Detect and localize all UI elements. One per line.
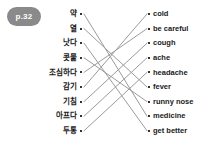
left-item-l9[interactable]: 두통 [63, 124, 82, 138]
right-connector-dot[interactable] [148, 101, 150, 103]
left-item-l2[interactable]: 열 [70, 22, 82, 36]
connection-line-l7-r3 [84, 43, 147, 101]
right-connector-dot[interactable] [148, 28, 150, 30]
left-item-label: 낫다 [63, 39, 77, 47]
connection-line-l8-r4 [84, 58, 147, 116]
right-item-r7[interactable]: runny nose [148, 95, 193, 109]
right-item-label: cough [153, 39, 176, 47]
left-item-label: 콧물 [63, 54, 77, 62]
left-item-label: 기침 [63, 98, 77, 106]
left-item-label: 열 [70, 25, 77, 33]
left-item-l8[interactable]: 아프다 [56, 109, 82, 123]
right-connector-dot[interactable] [148, 42, 150, 44]
right-connector-dot[interactable] [148, 57, 150, 59]
right-item-label: fever [153, 83, 171, 91]
left-connector-dot[interactable] [80, 13, 82, 15]
connection-line-l9-r5 [84, 72, 147, 130]
right-item-r1[interactable]: cold [148, 7, 168, 21]
left-column: 약열낫다콧물조심하다감기기침아프다두통 [0, 0, 82, 145]
right-item-label: be careful [153, 25, 188, 33]
right-item-r3[interactable]: cough [148, 36, 176, 50]
connection-line-l4-r7 [84, 58, 147, 102]
right-item-r2[interactable]: be careful [148, 22, 188, 36]
left-item-l4[interactable]: 콧물 [63, 51, 82, 65]
right-connector-dot[interactable] [148, 71, 150, 73]
left-connector-dot[interactable] [80, 28, 82, 30]
right-item-label: ache [153, 54, 170, 62]
left-connector-dot[interactable] [80, 71, 82, 73]
left-item-l5[interactable]: 조심하다 [49, 65, 82, 79]
connection-line-l1-r8 [84, 14, 147, 116]
connection-line-l5-r2 [84, 29, 147, 73]
right-connector-dot[interactable] [148, 115, 150, 117]
right-connector-dot[interactable] [148, 13, 150, 15]
right-item-label: medicine [153, 112, 186, 120]
right-item-r5[interactable]: headache [148, 65, 188, 79]
left-item-label: 약 [70, 10, 77, 18]
left-item-l7[interactable]: 기침 [63, 95, 82, 109]
left-item-l6[interactable]: 감기 [63, 80, 82, 94]
left-connector-dot[interactable] [80, 57, 82, 59]
left-item-label: 두통 [63, 127, 77, 135]
right-item-label: cold [153, 10, 168, 18]
right-connector-dot[interactable] [148, 130, 150, 132]
right-item-r6[interactable]: fever [148, 80, 171, 94]
left-connector-dot[interactable] [80, 86, 82, 88]
left-item-label: 조심하다 [49, 69, 77, 77]
left-item-label: 아프다 [56, 112, 77, 120]
left-item-l1[interactable]: 약 [70, 7, 82, 21]
right-connector-dot[interactable] [148, 86, 150, 88]
left-connector-dot[interactable] [80, 130, 82, 132]
right-item-label: get better [153, 127, 187, 135]
right-item-r8[interactable]: medicine [148, 109, 186, 123]
right-item-label: headache [153, 69, 188, 77]
worksheet-canvas: p.32 약열낫다콧물조심하다감기기침아프다두통 coldbe carefulc… [0, 0, 204, 145]
left-connector-dot[interactable] [80, 42, 82, 44]
connection-line-l3-r9 [84, 43, 147, 131]
right-item-label: runny nose [153, 98, 193, 106]
left-item-l3[interactable]: 낫다 [63, 36, 82, 50]
right-item-r4[interactable]: ache [148, 51, 170, 65]
right-column: coldbe carefulcoughacheheadachefeverrunn… [148, 0, 204, 145]
connection-line-l2-r6 [84, 29, 147, 87]
connection-line-l6-r1 [84, 14, 147, 87]
right-item-r9[interactable]: get better [148, 124, 187, 138]
left-connector-dot[interactable] [80, 101, 82, 103]
left-item-label: 감기 [63, 83, 77, 91]
left-connector-dot[interactable] [80, 115, 82, 117]
